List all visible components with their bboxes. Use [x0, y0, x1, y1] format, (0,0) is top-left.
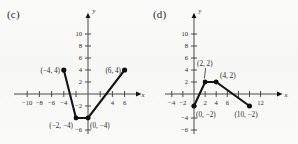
point-label-c-neg4-4: (−4, 4)	[40, 67, 60, 75]
y-tick-label-c-0: 10	[75, 30, 82, 37]
y-tick-label-c-1: 8	[79, 42, 83, 49]
x-tick-label-d-5: 12	[257, 99, 264, 106]
x-tick-label-d-2: 2	[203, 99, 206, 106]
y-tick-label-c-5: −2	[75, 102, 82, 109]
x-tick-label-d-1: −2	[179, 99, 186, 106]
data-point-d-0-neg2	[192, 104, 197, 109]
point-label-d-4-2: (4, 2)	[220, 72, 236, 80]
point-label-d-0-neg2: (0, −2)	[196, 111, 216, 119]
point-label-d-10-neg2: (10, −2)	[234, 111, 258, 119]
y-tick-label-c-2: 6	[79, 54, 83, 61]
data-point-c-neg2-neg4	[74, 116, 79, 121]
y-tick-label-d-3: 4	[185, 66, 189, 73]
point-label-c-0-neg4: (0, −4)	[90, 122, 110, 130]
y-tick-label-d-6: −6	[181, 126, 189, 133]
y-tick-label-c-6: −6	[75, 126, 83, 133]
y-axis-label-c: y	[92, 7, 97, 14]
point-label-c-neg2-neg4: (−2, −4)	[49, 122, 73, 130]
data-point-d-10-neg2	[247, 104, 252, 109]
x-axis-arrow-d	[277, 92, 283, 97]
data-point-c-6-4	[122, 67, 127, 72]
y-axis-label-d: y	[198, 7, 203, 14]
y-tick-label-c-4: 2	[79, 78, 82, 85]
graph-c: −10 −8 −6 −4 4 6 10 8 6 4 2 −2 −6 x y (−…	[0, 0, 149, 144]
x-tick-label-c-1: −8	[36, 99, 44, 106]
x-tick-label-d-0: −4	[168, 99, 176, 106]
x-tick-label-c-2: −6	[48, 99, 56, 106]
data-point-c-neg4-4	[61, 67, 66, 72]
point-label-d-2-2: (2, 2)	[197, 60, 213, 68]
figure-panel-c: (c) −10 −	[0, 0, 149, 144]
y-tick-label-d-0: 10	[181, 30, 188, 37]
x-tick-label-c-5: 6	[123, 99, 127, 106]
y-tick-label-d-4: 2	[185, 78, 188, 85]
data-point-c-0-neg4	[86, 116, 91, 121]
point-label-c-6-4: (6, 4)	[105, 67, 121, 75]
figure-panel-d: (d) −4 −2	[149, 0, 298, 144]
graph-d: −4 −2 2 4 6 12 10 8 6 4 2 −4 −6 x y (2, …	[149, 0, 298, 144]
x-axis-label-d: x	[283, 91, 287, 98]
y-axis-arrow-d	[192, 13, 197, 18]
data-point-d-2-2	[203, 80, 208, 85]
y-tick-label-d-5: −4	[181, 114, 189, 121]
x-tick-label-c-3: −4	[60, 99, 68, 106]
y-tick-label-d-2: 6	[185, 54, 189, 61]
x-tick-label-c-0: −10	[22, 99, 33, 106]
x-tick-label-d-3: 4	[215, 99, 219, 106]
data-point-d-4-2	[214, 80, 219, 85]
y-tick-label-d-1: 8	[185, 42, 189, 49]
x-axis-label-c: x	[140, 91, 144, 98]
x-tick-label-d-4: 6	[226, 99, 230, 106]
leader-line-d-2-2	[204, 68, 205, 79]
y-tick-label-c-3: 4	[79, 66, 83, 73]
x-tick-label-c-4: 4	[111, 99, 115, 106]
y-axis-arrow-c	[86, 13, 91, 18]
